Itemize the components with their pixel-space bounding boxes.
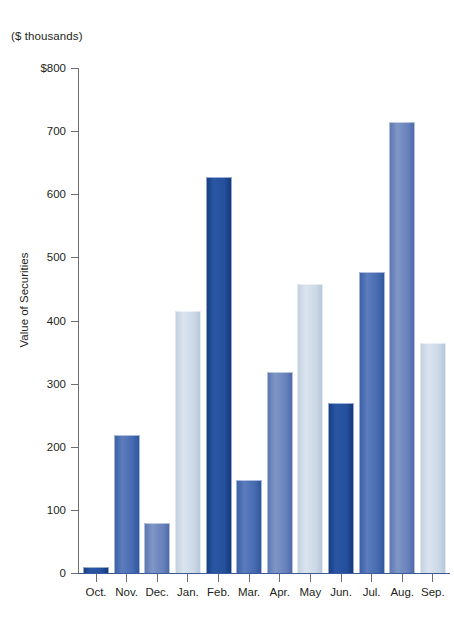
y-tick-mark: [71, 447, 78, 448]
x-tick-mark: [218, 574, 219, 582]
x-tick-slot: [83, 574, 109, 582]
bar-jul: [359, 272, 385, 573]
bar-sep: [420, 343, 446, 573]
x-tick-slot: [236, 574, 262, 582]
y-tick-label: 500: [47, 251, 66, 263]
x-tick-slot: [328, 574, 354, 582]
bar-slot: [114, 68, 140, 573]
y-tick-mark: [71, 510, 78, 511]
bar-slot: [206, 68, 232, 573]
y-tick-mark: [71, 573, 78, 574]
x-tick-mark: [126, 574, 127, 582]
x-tick-slot: [420, 574, 446, 582]
x-tick-slot: [267, 574, 293, 582]
bar-slot: [175, 68, 201, 573]
y-tick-mark: [71, 68, 78, 69]
x-tick-slot: [359, 574, 385, 582]
x-axis-labels: Oct.Nov.Dec.Jan.Feb.Mar.Apr.MayJun.Jul.A…: [79, 586, 450, 598]
x-tick-slot: [175, 574, 201, 582]
bar-slot: [144, 68, 170, 573]
y-tick-mark: [71, 131, 78, 132]
bar-chart: ($ thousands) Value of Securities $80070…: [0, 0, 454, 624]
x-axis-line: [78, 573, 450, 574]
x-tick-label: Feb.: [206, 586, 232, 598]
x-tick-mark: [96, 574, 97, 582]
x-tick-mark: [157, 574, 158, 582]
y-tick-label: 0: [60, 567, 66, 579]
bar-dec: [144, 523, 170, 573]
x-tick-label: Nov.: [114, 586, 140, 598]
y-tick-mark: [71, 194, 78, 195]
bar-mar: [236, 480, 262, 573]
bar-may: [297, 284, 323, 573]
units-caption: ($ thousands): [11, 30, 83, 42]
x-tick-label: Sep.: [420, 586, 446, 598]
x-tick-label: Dec.: [144, 586, 170, 598]
bar-nov: [114, 435, 140, 573]
x-tick-label: Jul.: [359, 586, 385, 598]
bar-aug: [389, 122, 415, 573]
bar-slot: [328, 68, 354, 573]
plot-area: $8007006005004003002001000: [78, 68, 450, 573]
bar-jan: [175, 311, 201, 573]
x-tick-slot: [206, 574, 232, 582]
x-tick-slot: [144, 574, 170, 582]
x-tick-slot: [389, 574, 415, 582]
bar-series: [79, 68, 450, 573]
bar-slot: [420, 68, 446, 573]
x-tick-mark: [187, 574, 188, 582]
y-tick-mark: [71, 384, 78, 385]
x-tick-slot: [297, 574, 323, 582]
bar-slot: [267, 68, 293, 573]
bar-feb: [206, 177, 232, 573]
bar-slot: [389, 68, 415, 573]
x-tick-mark: [310, 574, 311, 582]
x-tick-mark: [249, 574, 250, 582]
x-tick-label: May: [297, 586, 323, 598]
x-tick-label: Aug.: [389, 586, 415, 598]
bar-slot: [359, 68, 385, 573]
bar-oct: [83, 567, 109, 573]
bar-slot: [297, 68, 323, 573]
x-axis-ticks: [79, 574, 450, 582]
bar-jun: [328, 403, 354, 573]
y-tick-label: 100: [47, 504, 66, 516]
y-tick-label: $800: [40, 62, 66, 74]
x-tick-mark: [432, 574, 433, 582]
y-tick-label: 700: [47, 125, 66, 137]
y-tick-label: 600: [47, 188, 66, 200]
x-tick-label: Jun.: [328, 586, 354, 598]
x-tick-label: Oct.: [83, 586, 109, 598]
y-axis-title: Value of Securities: [18, 210, 30, 390]
x-tick-slot: [114, 574, 140, 582]
bar-slot: [83, 68, 109, 573]
x-tick-label: Mar.: [236, 586, 262, 598]
x-tick-mark: [279, 574, 280, 582]
x-tick-label: Apr.: [267, 586, 293, 598]
y-tick-label: 400: [47, 315, 66, 327]
y-tick-mark: [71, 257, 78, 258]
y-tick-label: 200: [47, 441, 66, 453]
bar-apr: [267, 372, 293, 573]
x-tick-mark: [402, 574, 403, 582]
x-tick-mark: [371, 574, 372, 582]
x-tick-label: Jan.: [175, 586, 201, 598]
y-tick-label: 300: [47, 378, 66, 390]
bar-slot: [236, 68, 262, 573]
x-tick-mark: [341, 574, 342, 582]
y-tick-mark: [71, 321, 78, 322]
